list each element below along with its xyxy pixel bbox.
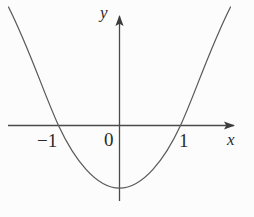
x-tick-label-negative-one: −1 <box>37 131 57 150</box>
parabola-figure: y x −1 0 1 <box>0 0 254 217</box>
plot-canvas <box>0 0 254 217</box>
y-axis-label: y <box>100 4 108 21</box>
x-axis-label: x <box>227 131 235 148</box>
origin-label: 0 <box>104 130 114 149</box>
x-tick-label-one: 1 <box>179 131 189 150</box>
